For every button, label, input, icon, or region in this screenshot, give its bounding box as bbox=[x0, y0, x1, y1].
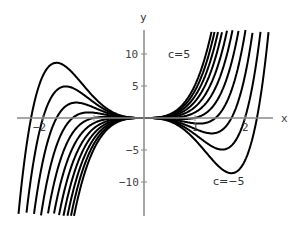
annotation-c-top: c=5 bbox=[168, 49, 190, 60]
annotation-c-bottom: c=−5 bbox=[213, 176, 244, 187]
tick-y-neg10: −10 bbox=[119, 177, 139, 188]
y-axis-label: y bbox=[140, 12, 147, 23]
tick-x-neg2: −2 bbox=[33, 122, 46, 133]
tick-x-2: 2 bbox=[242, 122, 249, 133]
tick-y-neg5: −5 bbox=[126, 145, 139, 156]
plot-area bbox=[0, 0, 300, 228]
tick-y-10: 10 bbox=[125, 49, 138, 60]
tick-y-5: 5 bbox=[132, 81, 139, 92]
curve-c=5 bbox=[74, 32, 212, 216]
tick-x-1: 1 bbox=[192, 122, 199, 133]
x-axis-label: x bbox=[281, 113, 288, 124]
